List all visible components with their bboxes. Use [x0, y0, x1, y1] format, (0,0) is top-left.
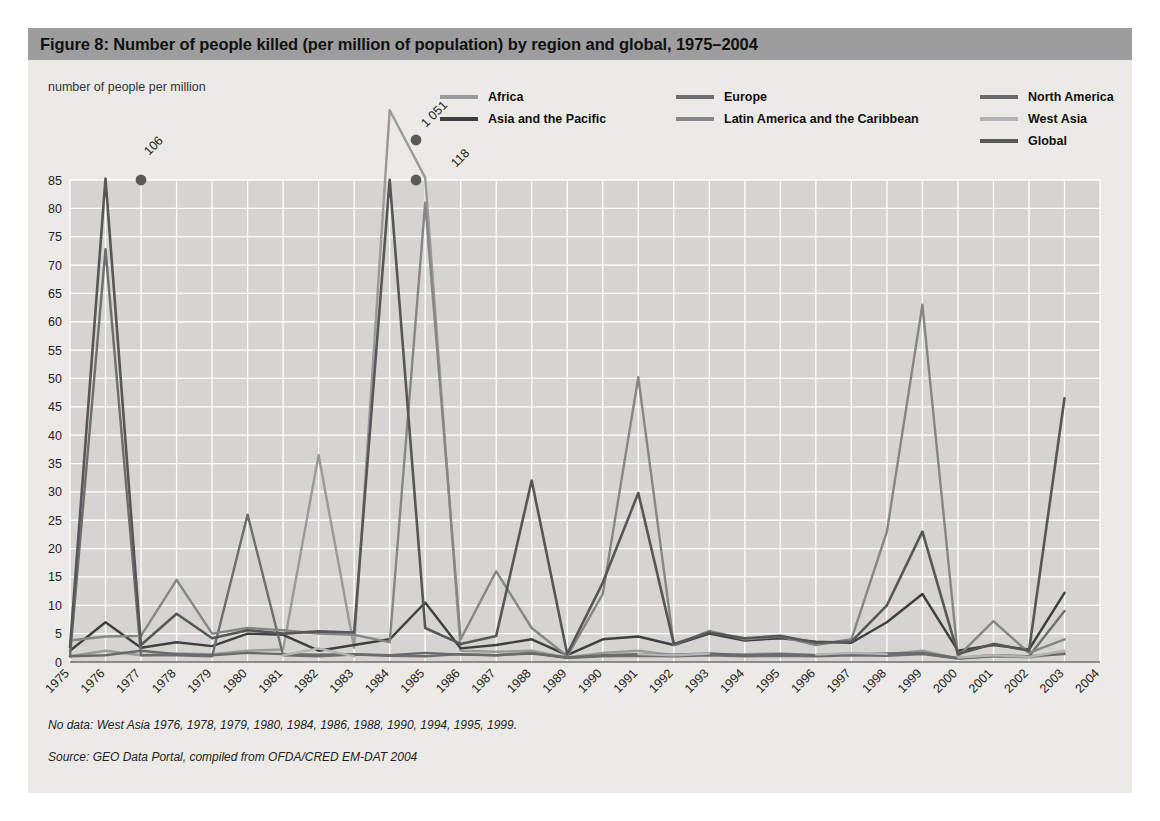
x-axis-tick-label: 1985	[398, 666, 428, 696]
x-axis-tick-label: 1978	[149, 666, 179, 696]
y-axis-tick-label: 20	[48, 542, 62, 556]
y-axis-tick-label: 45	[48, 400, 62, 414]
y-axis-tick-label: 5	[55, 627, 62, 641]
x-axis-tick-label: 1984	[362, 666, 392, 696]
x-axis-tick-label: 1991	[611, 666, 641, 696]
y-axis-tick-label: 25	[48, 514, 62, 528]
data-point-label: 1 051	[418, 98, 450, 130]
x-axis-tick-label: 1993	[682, 666, 712, 696]
x-axis-tick-label: 1983	[327, 666, 357, 696]
x-axis-tick-label: 2002	[1002, 666, 1032, 696]
plot-background	[70, 180, 1100, 662]
x-axis-tick-label: 1987	[469, 666, 499, 696]
no-data-note: No data: West Asia 1976, 1978, 1979, 198…	[48, 718, 517, 732]
x-axis-tick-label: 2003	[1037, 666, 1067, 696]
x-axis-tick-label: 2004	[1073, 666, 1103, 696]
y-axis-tick-label: 50	[48, 372, 62, 386]
y-axis-tick-label: 70	[48, 259, 62, 273]
x-axis-tick-label: 1988	[504, 666, 534, 696]
source-note: Source: GEO Data Portal, compiled from O…	[48, 750, 417, 764]
x-axis-tick-label: 1977	[114, 666, 144, 696]
x-axis-tick-label: 2001	[966, 666, 996, 696]
x-axis-tick-label: 1976	[78, 666, 108, 696]
x-axis-tick-label: 1975	[43, 666, 73, 696]
y-axis-tick-label: 85	[48, 174, 62, 188]
data-point-marker	[136, 175, 147, 186]
x-axis-tick-label: 1994	[717, 666, 747, 696]
x-axis-tick-label: 1995	[753, 666, 783, 696]
y-axis-tick-label: 30	[48, 485, 62, 499]
y-axis-tick-label: 10	[48, 599, 62, 613]
y-axis-tick-label: 35	[48, 457, 62, 471]
chart-plot-area: 0510152025303540455055606570758085197519…	[28, 28, 1132, 793]
y-axis-tick-label: 40	[48, 429, 62, 443]
y-axis-tick-label: 15	[48, 570, 62, 584]
data-point-marker	[411, 175, 422, 186]
y-axis-tick-label: 65	[48, 287, 62, 301]
x-axis-tick-label: 1979	[185, 666, 215, 696]
x-axis-tick-label: 1992	[646, 666, 676, 696]
y-axis-tick-label: 60	[48, 315, 62, 329]
x-axis-tick-label: 1986	[433, 666, 463, 696]
x-axis-tick-label: 1998	[859, 666, 889, 696]
line-chart-svg: 0510152025303540455055606570758085197519…	[28, 28, 1132, 793]
x-axis-tick-label: 1996	[788, 666, 818, 696]
y-axis-tick-label: 80	[48, 202, 62, 216]
x-axis-tick-label: 2000	[930, 666, 960, 696]
data-point-label: 106	[141, 133, 166, 158]
x-axis-tick-label: 1999	[895, 666, 925, 696]
y-axis-tick-label: 55	[48, 344, 62, 358]
x-axis-tick-label: 1981	[256, 666, 286, 696]
data-point-label: 118	[448, 146, 472, 170]
figure-panel: Figure 8: Number of people killed (per m…	[28, 28, 1132, 793]
data-point-marker	[411, 135, 422, 146]
y-axis-tick-label: 75	[48, 230, 62, 244]
x-axis-tick-label: 1990	[575, 666, 605, 696]
x-axis-tick-label: 1997	[824, 666, 854, 696]
x-axis-tick-label: 1989	[540, 666, 570, 696]
x-axis-tick-label: 1982	[291, 666, 321, 696]
x-axis-tick-label: 1980	[220, 666, 250, 696]
